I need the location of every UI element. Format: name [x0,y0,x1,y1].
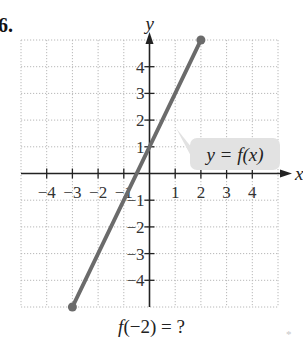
question-text: f(−2) = ? [0,316,303,338]
question-argument: (−2) = ? [123,316,185,337]
y-tick-label: −2 [126,218,144,237]
x-tick-label: −2 [89,183,107,202]
x-axis-label: x [294,163,303,184]
callout-text: y = f(x) [204,144,263,166]
endpoint-dot [68,303,77,312]
function-graph: −4−3−2−112344321−1−2−3−4 y = f(x) x y [0,0,303,345]
endpoint-dot [196,36,205,45]
function-label-callout: y = f(x) [176,128,280,170]
x-tick-label: 3 [222,183,231,202]
y-tick-label: 3 [136,84,145,103]
footnote-marker: * [286,328,292,340]
y-tick-label: −3 [126,245,144,264]
y-tick-label: −1 [126,191,144,210]
y-axis-label: y [144,13,155,34]
x-tick-label: −4 [38,183,57,202]
y-tick-label: −4 [126,271,145,290]
x-tick-label: 4 [248,183,257,202]
x-tick-label: 1 [171,183,180,202]
y-tick-label: 2 [136,111,145,130]
y-tick-label: 1 [136,138,145,157]
x-tick-label: −3 [63,183,81,202]
y-tick-label: 4 [136,58,145,77]
x-tick-label: 2 [197,183,206,202]
problem-figure: 6. −4−3−2−112344321−1−2−3−4 y = f(x) x y… [0,0,303,345]
